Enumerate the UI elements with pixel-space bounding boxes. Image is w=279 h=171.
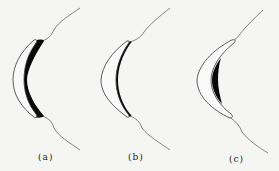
panel-b-label: (b) — [128, 152, 144, 162]
panel-b-drawing — [101, 8, 170, 150]
diagram-svg — [0, 0, 279, 171]
panel-c-profile-top — [232, 10, 263, 41]
panel-c-label: (c) — [229, 154, 244, 164]
panel-c-drawing — [197, 10, 268, 153]
panel-a-profile-bottom — [42, 116, 80, 150]
panel-a-label: (a) — [38, 152, 53, 162]
figure-canvas: (a) (b) (c) — [0, 0, 279, 171]
panel-b-profile-top — [130, 8, 170, 42]
panel-c-profile-bottom — [231, 118, 268, 153]
panel-a-profile-top — [42, 8, 80, 41]
panel-a-drawing — [13, 8, 80, 150]
panel-b-profile-bottom — [130, 116, 170, 150]
